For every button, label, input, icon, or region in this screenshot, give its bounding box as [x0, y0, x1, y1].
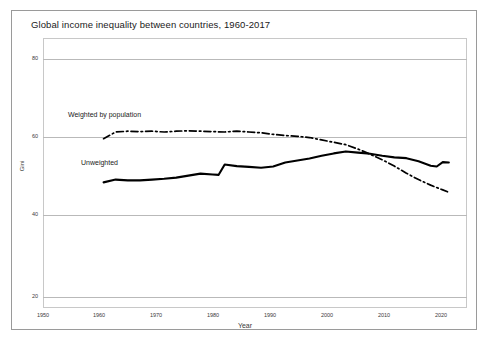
chart-figure: Global income inequality between countri… — [11, 10, 477, 330]
series-line-unweighted — [104, 151, 449, 182]
series-line-weighted — [104, 131, 449, 192]
series-lines — [12, 11, 478, 331]
